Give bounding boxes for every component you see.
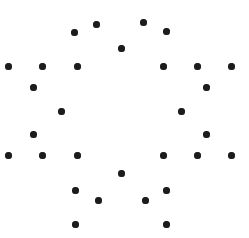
scatter-dot bbox=[93, 21, 100, 28]
scatter-dot bbox=[178, 108, 185, 115]
scatter-dot bbox=[39, 152, 46, 159]
scatter-dot bbox=[163, 28, 170, 35]
scatter-dot bbox=[72, 221, 79, 228]
scatter-dot bbox=[163, 187, 170, 194]
scatter-dot bbox=[30, 84, 37, 91]
dot-pattern-canvas bbox=[0, 0, 249, 238]
scatter-dot bbox=[5, 152, 12, 159]
scatter-dot bbox=[228, 152, 235, 159]
scatter-dot bbox=[58, 108, 65, 115]
scatter-dot bbox=[74, 63, 81, 70]
scatter-dot bbox=[228, 63, 235, 70]
scatter-dot bbox=[39, 63, 46, 70]
scatter-dot bbox=[95, 197, 102, 204]
scatter-dot bbox=[160, 152, 167, 159]
scatter-dot bbox=[30, 131, 37, 138]
scatter-dot bbox=[203, 131, 210, 138]
scatter-dot bbox=[194, 63, 201, 70]
scatter-dot bbox=[71, 29, 78, 36]
scatter-dot bbox=[203, 84, 210, 91]
scatter-dot bbox=[194, 152, 201, 159]
scatter-dot bbox=[163, 221, 170, 228]
scatter-dot bbox=[140, 19, 147, 26]
scatter-dot bbox=[74, 152, 81, 159]
scatter-dot bbox=[160, 63, 167, 70]
scatter-dot bbox=[118, 170, 125, 177]
scatter-dot bbox=[142, 197, 149, 204]
scatter-dot bbox=[118, 45, 125, 52]
scatter-dot bbox=[72, 187, 79, 194]
scatter-dot bbox=[5, 63, 12, 70]
